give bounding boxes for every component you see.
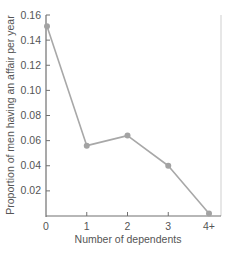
y-tick-label: 0.12	[21, 59, 42, 71]
line-chart: 0.020.040.060.080.100.120.140.16 01234+ …	[0, 0, 230, 256]
series-line	[47, 26, 209, 213]
data-point-marker	[84, 143, 90, 149]
y-tick-label: 0.04	[21, 159, 42, 171]
x-tick-label: 1	[84, 220, 90, 232]
data-point-marker	[44, 23, 50, 29]
y-tick-label: 0.10	[21, 84, 42, 96]
y-tick-label: 0.14	[21, 34, 42, 46]
x-axis: 01234+	[43, 212, 221, 232]
y-tick-label: 0.06	[21, 134, 42, 146]
x-tick-label: 0	[43, 220, 49, 232]
y-axis-title: Proportion of men having an affair per y…	[4, 15, 16, 215]
x-tick-label: 4+	[203, 220, 215, 232]
x-tick-label: 2	[125, 220, 131, 232]
data-point-marker	[125, 133, 131, 139]
data-point-marker	[165, 163, 171, 169]
y-tick-label: 0.16	[21, 9, 42, 21]
y-tick-label: 0.02	[21, 184, 42, 196]
y-tick-label: 0.08	[21, 109, 42, 121]
x-tick-label: 3	[165, 220, 171, 232]
y-axis: 0.020.040.060.080.100.120.140.16	[21, 9, 50, 218]
x-axis-title: Number of dependents	[75, 233, 182, 245]
data-series	[44, 23, 212, 216]
data-point-marker	[206, 210, 212, 216]
